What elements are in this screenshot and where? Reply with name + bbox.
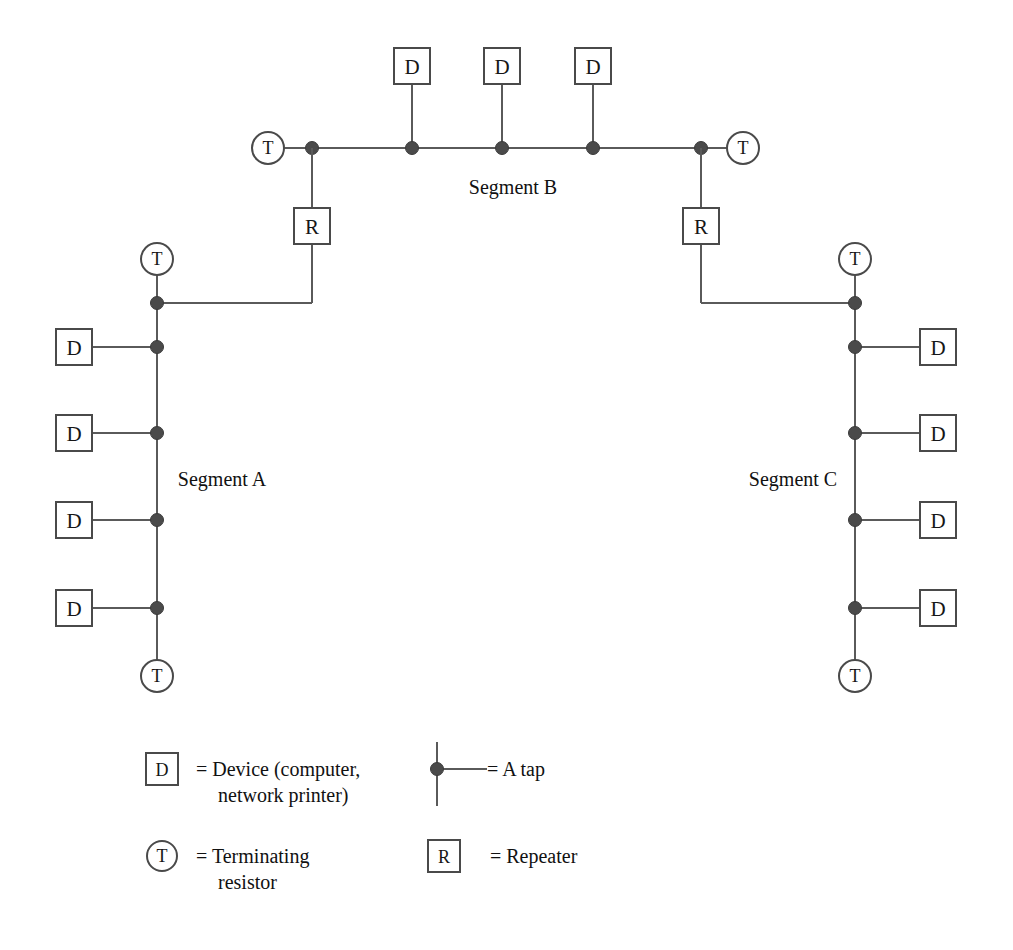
segment-a-group: T T D D D [56, 243, 267, 692]
legend-repeater-symbol-label: R [438, 847, 450, 867]
segment-a-tap-3[interactable] [151, 514, 164, 527]
segment-a-terminator-bottom[interactable]: T [141, 660, 173, 692]
segment-a-label: Segment A [178, 468, 267, 491]
legend-terminator-text-line1: = Terminating [196, 845, 309, 868]
legend-device-symbol: D [146, 753, 178, 785]
legend-terminator-item: T = Terminating resistor [147, 841, 309, 893]
segment-b-terminator-right[interactable]: T [727, 132, 759, 164]
segment-b-terminator-left[interactable]: T [252, 132, 284, 164]
segment-b-terminator-left-label: T [263, 138, 274, 158]
legend-tap-symbol [431, 742, 488, 806]
segment-a-device-3[interactable]: D [56, 502, 92, 538]
segment-b-device-2[interactable]: D [484, 48, 520, 84]
legend-tap-dot [431, 763, 444, 776]
segment-c-device-3-label: D [930, 509, 945, 533]
segment-b-tap-4[interactable] [587, 142, 600, 155]
diagram-svg: D D D T T [0, 0, 1013, 950]
legend-repeater-item: R = Repeater [428, 840, 578, 872]
repeater-left[interactable]: R [294, 208, 330, 244]
segment-c-tap-1[interactable] [849, 341, 862, 354]
legend-terminator-symbol: T [147, 841, 177, 871]
segment-c-group: T T D D D [749, 243, 956, 692]
segment-a-device-1-label: D [66, 336, 81, 360]
segment-c-device-1-label: D [930, 336, 945, 360]
segment-c-device-4-label: D [930, 597, 945, 621]
segment-b-device-1-label: D [404, 55, 419, 79]
segment-a-terminator-top[interactable]: T [141, 243, 173, 275]
legend-terminator-text-line2: resistor [218, 871, 277, 893]
segment-b-label: Segment B [469, 176, 557, 199]
segment-b-tap-3[interactable] [496, 142, 509, 155]
segment-b-tap-2[interactable] [406, 142, 419, 155]
segment-b-device-3[interactable]: D [575, 48, 611, 84]
segment-a-device-2-label: D [66, 422, 81, 446]
segment-a-tap-2[interactable] [151, 427, 164, 440]
network-diagram-canvas: D D D T T [0, 0, 1013, 950]
repeater-right-group: R [683, 148, 855, 303]
segment-c-terminator-top-label: T [850, 249, 861, 269]
segment-b-device-3-label: D [585, 55, 600, 79]
legend-device-symbol-label: D [156, 760, 169, 780]
segment-a-terminator-top-label: T [152, 249, 163, 269]
segment-c-terminator-top[interactable]: T [839, 243, 871, 275]
segment-a-terminator-bottom-label: T [152, 666, 163, 686]
segment-a-device-4[interactable]: D [56, 590, 92, 626]
legend-device-text-line2: network printer) [218, 784, 349, 807]
segment-c-device-2[interactable]: D [920, 415, 956, 451]
segment-c-terminator-bottom-label: T [850, 666, 861, 686]
segment-b-group: D D D T T [252, 48, 759, 199]
segment-c-device-1[interactable]: D [920, 329, 956, 365]
segment-c-label: Segment C [749, 468, 837, 491]
segment-c-tap-4[interactable] [849, 602, 862, 615]
segment-a-tap-repeater[interactable] [151, 297, 164, 310]
segment-a-device-3-label: D [66, 509, 81, 533]
segment-a-tap-1[interactable] [151, 341, 164, 354]
legend-device-item: D = Device (computer, network printer) [146, 753, 360, 807]
legend-repeater-text: = Repeater [490, 845, 578, 868]
segment-a-tap-4[interactable] [151, 602, 164, 615]
segment-b-terminator-right-label: T [738, 138, 749, 158]
segment-a-device-4-label: D [66, 597, 81, 621]
segment-c-tap-repeater[interactable] [849, 297, 862, 310]
legend-repeater-symbol: R [428, 840, 460, 872]
segment-c-tap-3[interactable] [849, 514, 862, 527]
segment-c-device-4[interactable]: D [920, 590, 956, 626]
segment-a-device-2[interactable]: D [56, 415, 92, 451]
segment-b-device-1[interactable]: D [394, 48, 430, 84]
repeater-left-label: R [305, 215, 319, 239]
legend-tap-text: = A tap [487, 758, 545, 781]
segment-c-device-3[interactable]: D [920, 502, 956, 538]
segment-b-device-2-label: D [494, 55, 509, 79]
legend-group: D = Device (computer, network printer) =… [146, 742, 578, 893]
repeater-left-group: R [157, 148, 330, 303]
repeater-right[interactable]: R [683, 208, 719, 244]
legend-device-text-line1: = Device (computer, [196, 758, 360, 781]
legend-tap-item: = A tap [431, 742, 545, 806]
repeater-right-label: R [694, 215, 708, 239]
segment-c-terminator-bottom[interactable]: T [839, 660, 871, 692]
segment-c-tap-2[interactable] [849, 427, 862, 440]
legend-terminator-symbol-label: T [157, 846, 168, 866]
segment-a-device-1[interactable]: D [56, 329, 92, 365]
segment-c-device-2-label: D [930, 422, 945, 446]
